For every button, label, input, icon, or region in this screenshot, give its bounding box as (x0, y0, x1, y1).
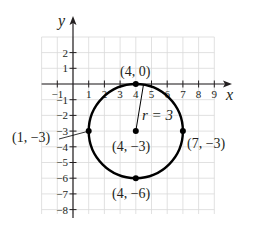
y-tick-label: −1 (56, 94, 68, 106)
label-point-center: (4, −3) (112, 139, 151, 155)
y-axis-label: y (56, 12, 66, 30)
x-tick-label: 4 (133, 88, 139, 100)
y-tick-label: 1 (63, 62, 69, 74)
label-point-right: (7, −3) (187, 136, 226, 152)
label-point-top: (4, 0) (120, 64, 151, 80)
y-tick-label: −7 (56, 188, 68, 200)
x-tick-label: 5 (149, 88, 155, 100)
y-tick-label: −8 (56, 204, 68, 216)
x-axis-label: x (225, 86, 233, 103)
x-tick-label: 9 (212, 88, 218, 100)
x-tick-label: 8 (196, 88, 202, 100)
point-top (133, 81, 139, 87)
x-tick-label: 7 (180, 88, 186, 100)
point-center (133, 128, 139, 134)
point-right (180, 128, 186, 134)
y-tick-label: −2 (56, 109, 68, 121)
radius-label: r = 3 (142, 107, 173, 123)
x-tick-label: 1 (86, 88, 92, 100)
y-tick-label: −3 (56, 125, 68, 137)
point-left (86, 128, 92, 134)
x-tick-label: 3 (117, 88, 123, 100)
label-point-left: (1, −3) (12, 130, 51, 146)
coordinate-plane: −1 1 2 3 4 5 6 7 8 9 2 1 −1 −2 −3 −4 −5 … (0, 0, 258, 240)
y-tick-label: −4 (56, 141, 68, 153)
label-point-bottom: (4, −6) (112, 186, 151, 202)
point-bottom (133, 175, 139, 181)
y-tick-label: −5 (56, 156, 68, 168)
y-tick-label: −6 (56, 172, 68, 184)
y-tick-label: 2 (63, 47, 69, 59)
